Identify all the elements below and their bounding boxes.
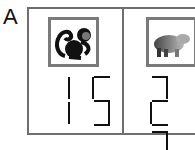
digit-3 (150, 131, 170, 150)
monkey-silhouette-icon (51, 20, 96, 64)
panel-label: A (3, 6, 18, 28)
bear-photo-icon (149, 20, 194, 64)
digit-5 (92, 76, 112, 126)
number-display-23: 23 (150, 76, 195, 150)
bear-image-box (146, 17, 195, 67)
cell-divider (122, 7, 124, 135)
number-display-15: 15 (66, 76, 118, 131)
digit-1 (66, 76, 86, 126)
digit-2 (150, 76, 170, 126)
monkey-image-box (48, 17, 99, 67)
